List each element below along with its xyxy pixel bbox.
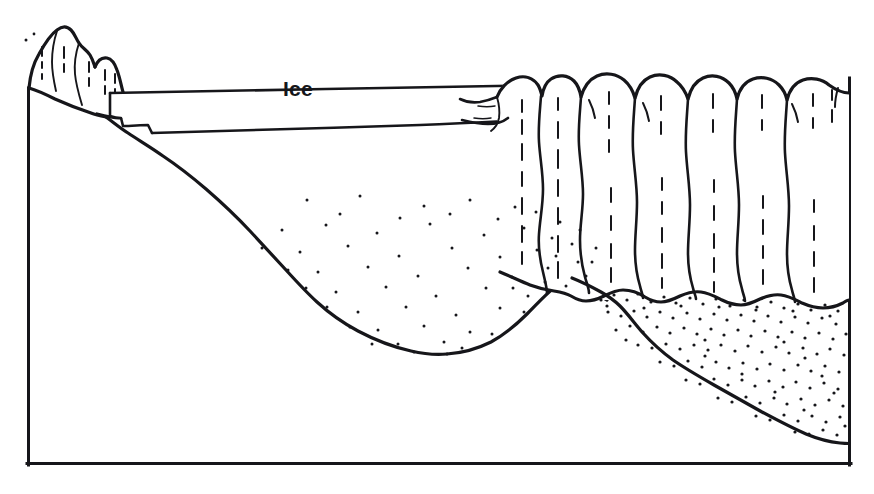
cross-section-drawing: Ice (0, 0, 874, 494)
ice-terminus-crease-1 (478, 106, 495, 107)
columnar-basalt-cliff (460, 73, 849, 308)
figure-root: Ice (0, 0, 874, 494)
dense-wedge-outline (572, 278, 849, 444)
left-outcrop-speck-1 (25, 39, 28, 42)
dense-sediment-wedge (572, 278, 849, 444)
ice-label: Ice (283, 77, 313, 100)
left-outcrop-speck-2 (33, 33, 36, 36)
columnar-cliff-fill (497, 73, 849, 300)
ice-terminus-crease-2 (474, 118, 491, 119)
glacier-ice-tongue (110, 86, 526, 134)
basin-left-wall (106, 117, 447, 354)
dense-wedge-stipple (599, 292, 847, 436)
